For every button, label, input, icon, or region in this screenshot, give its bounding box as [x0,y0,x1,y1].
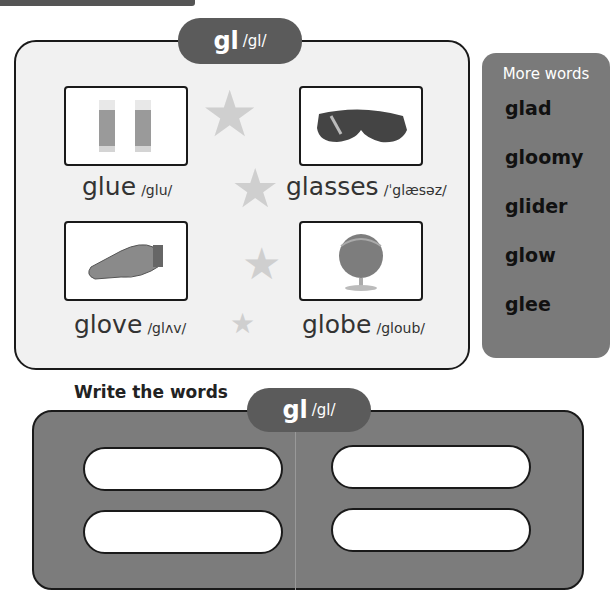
picture-frame-glove [64,221,188,301]
word-label-globe: globe /gloub/ [302,310,425,339]
glue-stick-icon [91,96,161,156]
column-divider [295,432,296,590]
more-words-panel: More words glad gloomy glider glow glee [482,53,610,358]
word-label-glue: glue /glu/ [82,172,172,201]
glove-icon [81,231,171,291]
write-section-title: Write the words [74,382,228,402]
glasses-icon [311,104,411,148]
star-decoration-icon: ★ [231,162,279,216]
picture-frame-glue [64,86,188,166]
star-decoration-icon: ★ [242,242,281,286]
more-word-item: glow [505,244,556,266]
picture-frame-glasses [299,86,423,166]
more-word-item: glider [505,195,567,217]
star-decoration-icon: ★ [230,310,255,338]
word-label-glasses: glasses /ˈglæsəz/ [286,172,447,201]
more-word-item: glee [505,293,551,315]
write-field-4[interactable] [331,508,531,552]
more-word-item: glad [505,97,552,119]
picture-frame-globe [299,221,423,301]
more-words-title: More words [482,65,610,83]
write-field-1[interactable] [83,447,283,491]
word-label-glove: glove /glʌv/ [74,310,186,339]
write-words-card [32,410,584,590]
vocabulary-card: ★ ★ ★ ★ glue /glu/ glasses /ˈglæsəz/ glo… [14,40,470,370]
write-field-3[interactable] [83,510,283,554]
globe-icon [331,228,391,294]
phonics-badge: gl /gl/ [178,18,302,64]
star-decoration-icon: ★ [201,82,258,146]
phonics-badge-write: gl /gl/ [247,388,371,432]
top-banner-edge [0,0,195,6]
more-word-item: gloomy [505,146,583,168]
write-field-2[interactable] [331,445,531,489]
